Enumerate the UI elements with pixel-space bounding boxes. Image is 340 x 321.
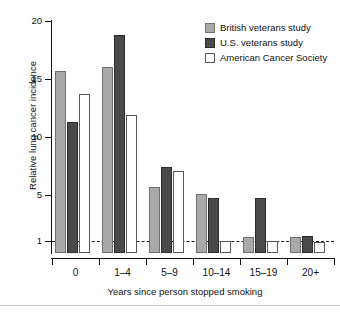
chart-legend: British veterans study U.S. veterans stu… xyxy=(205,21,337,66)
caption-divider xyxy=(0,305,340,306)
y-axis-tick xyxy=(45,241,51,242)
x-axis-tick-label: 20+ xyxy=(281,268,340,278)
bar xyxy=(208,198,220,253)
legend-swatch-icon-british xyxy=(205,23,215,33)
x-axis-tick xyxy=(334,259,335,265)
bar xyxy=(220,241,232,253)
x-axis-tick xyxy=(287,259,288,265)
bar xyxy=(302,236,314,253)
legend-label-british: British veterans study xyxy=(220,23,311,33)
bar xyxy=(267,241,279,253)
bar xyxy=(161,167,173,253)
bar xyxy=(126,115,138,253)
legend-label-acs: American Cancer Society xyxy=(220,53,327,63)
bar xyxy=(114,35,126,253)
bar xyxy=(173,171,185,253)
bar xyxy=(149,187,161,253)
x-axis-tick xyxy=(52,259,53,265)
bar xyxy=(314,242,326,253)
y-axis-tick-label: 1 xyxy=(8,236,42,246)
x-axis-tick xyxy=(146,259,147,265)
x-axis-tick xyxy=(99,259,100,265)
x-axis-tick xyxy=(240,259,241,265)
bar-group xyxy=(52,21,99,253)
y-axis-tick xyxy=(45,137,51,138)
legend-swatch-icon-us xyxy=(205,38,215,48)
bar xyxy=(290,237,302,253)
y-axis-tick-label: 5 xyxy=(8,190,42,200)
legend-swatch-icon-acs xyxy=(205,53,215,63)
legend-item-acs: American Cancer Society xyxy=(205,51,337,65)
y-axis-tick xyxy=(45,21,51,22)
y-axis-tick-label: 20 xyxy=(8,16,42,26)
y-axis-tick xyxy=(45,79,51,80)
bar xyxy=(102,67,114,253)
bar xyxy=(67,122,79,253)
legend-item-us: U.S. veterans study xyxy=(205,36,337,50)
bar-group xyxy=(99,21,146,253)
y-axis-tick-label: 15 xyxy=(8,74,42,84)
x-axis-tick xyxy=(193,259,194,265)
x-axis-title: Years since person stopped smoking xyxy=(40,286,330,297)
bar xyxy=(79,94,91,253)
legend-item-british: British veterans study xyxy=(205,21,337,35)
bar-group xyxy=(146,21,193,253)
bar xyxy=(243,237,255,253)
bar xyxy=(55,71,67,253)
y-axis-tick-label: 10 xyxy=(8,132,42,142)
bar xyxy=(255,198,267,253)
bar xyxy=(196,194,208,253)
y-axis-tick xyxy=(45,195,51,196)
legend-label-us: U.S. veterans study xyxy=(220,38,303,48)
chart-figure: Relative lung cancer incidence 15101520 … xyxy=(0,0,340,321)
